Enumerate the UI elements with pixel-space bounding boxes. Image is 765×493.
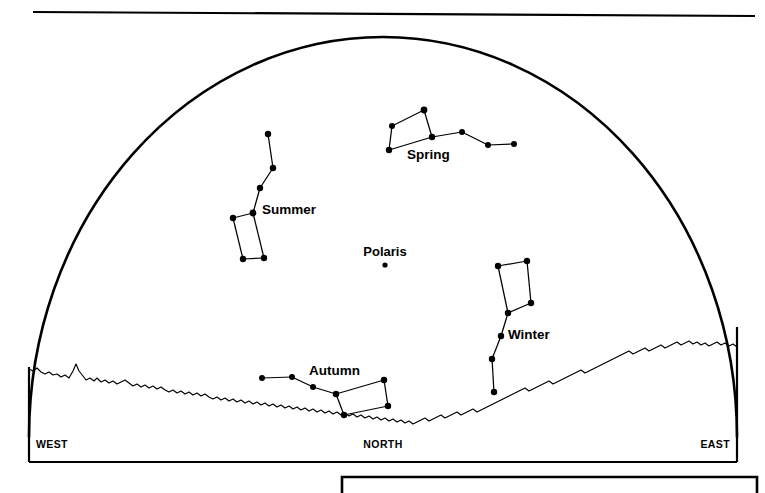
star-link (527, 261, 531, 303)
constellation-autumn: Autumn (259, 363, 391, 418)
star-link (389, 126, 392, 150)
star-link (492, 336, 501, 359)
star-dot (385, 403, 391, 409)
star-link (336, 380, 384, 394)
constellation-label-winter: Winter (508, 327, 551, 342)
star-link (488, 144, 514, 145)
star-link (508, 303, 531, 313)
star-link (253, 213, 264, 258)
star-chart-canvas: SpringSummerWinterAutumn Polaris WEST NO… (0, 0, 765, 493)
star-chart-figure: SpringSummerWinterAutumn Polaris WEST NO… (0, 0, 765, 493)
star-dot (491, 389, 497, 395)
star-dot (524, 258, 530, 264)
star-dot (310, 384, 316, 390)
polaris-star (382, 262, 387, 267)
star-link (344, 406, 388, 415)
direction-label-north: NORTH (363, 438, 402, 450)
star-dot (511, 141, 517, 147)
star-link (268, 134, 273, 168)
star-dot (528, 300, 534, 306)
star-dot (421, 107, 428, 114)
star-link (253, 188, 260, 213)
star-dot (505, 310, 511, 316)
star-link (262, 377, 292, 378)
star-dot (230, 215, 236, 221)
star-dot (265, 131, 271, 137)
star-dot (240, 256, 246, 262)
star-link (292, 377, 313, 387)
star-link (492, 359, 494, 392)
star-dot (381, 377, 387, 383)
star-link (501, 313, 508, 336)
star-dot (429, 134, 435, 140)
star-dot (459, 129, 465, 135)
star-dot (498, 333, 504, 339)
star-dot (341, 412, 347, 418)
star-link (313, 387, 336, 394)
star-link (233, 218, 243, 259)
secondary-panel-top-edge (342, 477, 757, 493)
star-dot (495, 263, 501, 269)
star-dot (261, 255, 267, 261)
direction-label-west: WEST (36, 438, 68, 450)
constellation-label-autumn: Autumn (309, 363, 360, 378)
star-link (498, 266, 508, 313)
star-dot (250, 210, 257, 217)
star-link (498, 261, 527, 266)
star-dot (489, 356, 495, 362)
top-divider-rule (33, 12, 755, 16)
star-dot (386, 147, 392, 153)
constellation-spring: Spring (386, 107, 517, 162)
constellation-label-spring: Spring (407, 147, 450, 162)
star-link (392, 110, 424, 126)
star-dot (257, 185, 263, 191)
constellation-label-summer: Summer (262, 202, 317, 217)
star-link (432, 132, 462, 137)
constellation-winter: Winter (489, 258, 551, 395)
constellation-layer: SpringSummerWinterAutumn (230, 107, 551, 419)
star-dot (485, 142, 491, 148)
polaris-label: Polaris (363, 244, 406, 259)
star-dot (389, 123, 395, 129)
star-dot (259, 375, 265, 381)
star-dot (333, 391, 339, 397)
star-dot (270, 165, 276, 171)
star-link (384, 380, 388, 406)
star-link (424, 110, 432, 137)
star-link (260, 168, 273, 188)
constellation-summer: Summer (230, 131, 317, 262)
direction-label-east: EAST (700, 438, 730, 450)
star-dot (289, 374, 295, 380)
star-link (462, 132, 488, 145)
